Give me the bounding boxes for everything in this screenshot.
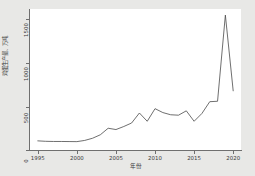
x-axis-line (29, 150, 242, 151)
x-axis-tick (77, 151, 78, 154)
x-axis-tick (116, 151, 117, 154)
y-axis-title: 鸡蛋生产量、万吨 (2, 28, 9, 84)
x-axis-tick-label: 2010 (143, 155, 167, 161)
x-axis-tick (233, 151, 234, 154)
y-axis-tick-label: 500 (23, 107, 29, 129)
y-axis-tick-label: 1000 (23, 63, 29, 85)
line-series-svg (30, 9, 241, 150)
y-axis-tick-label: 0 (23, 150, 29, 172)
x-axis-tick (155, 151, 156, 154)
line-series-path (38, 15, 233, 142)
chart-figure: 050010001500 199520002005201020152020 鸡蛋… (0, 0, 255, 176)
x-axis-tick (194, 151, 195, 154)
x-axis-tick-label: 2005 (104, 155, 128, 161)
x-axis-tick-label: 2015 (182, 155, 206, 161)
x-axis-title: 年份 (30, 163, 241, 170)
plot-area (30, 9, 241, 150)
x-axis-tick-label: 2000 (65, 155, 89, 161)
x-axis-tick-label: 2020 (221, 155, 245, 161)
y-axis-tick-label: 1500 (23, 19, 29, 41)
x-axis-tick (38, 151, 39, 154)
x-axis-tick-label: 1995 (26, 155, 50, 161)
y-axis-line (29, 9, 30, 151)
